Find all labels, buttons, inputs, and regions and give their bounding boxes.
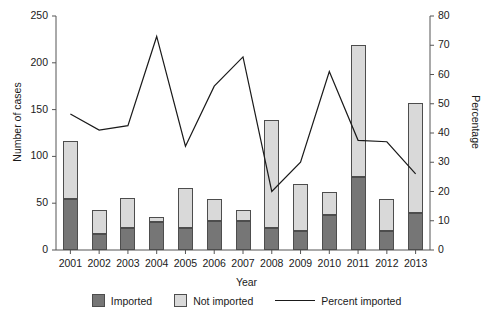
y-tick-right-30: 30 [438, 155, 464, 167]
legend-item-imported: Imported [92, 294, 152, 307]
legend-item-percent-imported: Percent imported [275, 295, 401, 307]
percent-line-series [56, 16, 430, 250]
legend-label-imported: Imported [111, 295, 152, 307]
y-tick-left-250: 250 [22, 9, 48, 21]
light-square-icon [174, 294, 187, 307]
y-tick-right-0: 0 [438, 243, 464, 255]
y-tick-right-40: 40 [438, 126, 464, 138]
y-tick-left-150: 150 [22, 103, 48, 115]
legend-item-not-imported: Not imported [174, 294, 253, 307]
dark-square-icon [92, 294, 105, 307]
x-tick-2013: 2013 [396, 257, 436, 269]
y-tick-left-50: 50 [22, 196, 48, 208]
legend-label-not-imported: Not imported [193, 295, 253, 307]
y-tick-right-10: 10 [438, 214, 464, 226]
y-tick-right-80: 80 [438, 9, 464, 21]
y-tick-right-20: 20 [438, 185, 464, 197]
chart-container: Number of cases Percentage Year 05010015… [0, 0, 493, 321]
line-segment-icon [275, 300, 315, 301]
plot-area [56, 16, 430, 250]
y-tick-left-200: 200 [22, 56, 48, 68]
y-tick-left-100: 100 [22, 149, 48, 161]
legend-label-percent-imported: Percent imported [321, 295, 401, 307]
y-tick-right-60: 60 [438, 68, 464, 80]
chart-legend: Imported Not imported Percent imported [0, 294, 493, 307]
y-tick-right-70: 70 [438, 38, 464, 50]
y-tick-left-0: 0 [22, 243, 48, 255]
y-tick-right-50: 50 [438, 97, 464, 109]
